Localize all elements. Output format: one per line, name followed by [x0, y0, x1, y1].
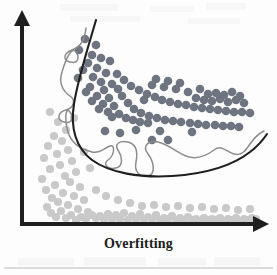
figure-container: Overfitting	[0, 0, 277, 275]
x-axis-arrowhead	[253, 216, 269, 232]
x-axis-label: Overfitting	[0, 236, 277, 252]
overfitting-plot	[0, 0, 277, 275]
y-axis	[14, 10, 30, 224]
y-axis-arrowhead	[14, 10, 30, 26]
dark-scatter-points	[74, 35, 255, 145]
plot-area	[38, 20, 267, 225]
